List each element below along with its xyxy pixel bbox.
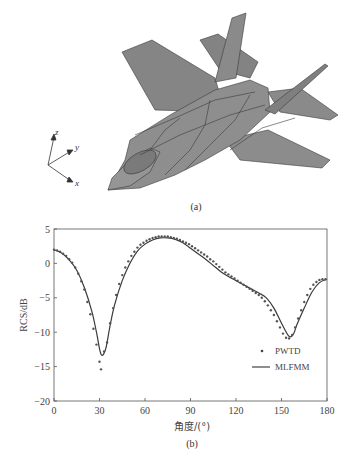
y-tick-label: 0 <box>45 258 50 269</box>
axis-label-z: z <box>54 127 59 137</box>
pwtd-point <box>258 294 260 296</box>
pwtd-point <box>185 242 187 244</box>
pwtd-point <box>118 283 120 285</box>
pwtd-point <box>62 253 64 255</box>
y-tick-label: −20 <box>34 396 50 407</box>
pwtd-point <box>236 279 238 281</box>
pwtd-point <box>98 361 100 363</box>
pwtd-point <box>309 288 311 290</box>
axis-label-x: x <box>74 178 79 188</box>
pwtd-point <box>139 244 141 246</box>
pwtd-point <box>160 235 162 237</box>
pwtd-point <box>239 281 241 283</box>
x-tick-label: 150 <box>274 405 289 416</box>
x-tick-label: 120 <box>229 405 244 416</box>
pwtd-point <box>100 368 102 370</box>
pwtd-point <box>65 255 67 257</box>
pwtd-point <box>167 235 169 237</box>
pwtd-point <box>297 317 299 319</box>
aircraft-mesh <box>108 13 338 190</box>
pwtd-point <box>103 350 105 352</box>
pwtd-point <box>115 294 117 296</box>
pwtd-point <box>154 236 156 238</box>
pwtd-point <box>276 320 278 322</box>
axis-label-y: y <box>74 142 79 152</box>
pwtd-point <box>251 290 253 292</box>
plot-frame <box>54 229 327 401</box>
pwtd-point <box>173 237 175 239</box>
x-axis-label: 角度/(°) <box>174 420 210 432</box>
y-tick-label: 5 <box>45 224 50 235</box>
pwtd-point <box>71 262 73 264</box>
pwtd-point <box>197 249 199 251</box>
pwtd-point <box>109 322 111 324</box>
pwtd-point <box>218 266 220 268</box>
y-axis-label: RCS/dB <box>18 298 29 332</box>
pwtd-point <box>255 292 257 294</box>
x-tick-label: 90 <box>186 405 196 416</box>
pwtd-point <box>59 251 61 253</box>
pwtd-point <box>130 255 132 257</box>
pwtd-point <box>206 255 208 257</box>
pwtd-point <box>194 247 196 249</box>
pwtd-point <box>188 243 190 245</box>
pwtd-point <box>77 273 79 275</box>
pwtd-point <box>303 301 305 303</box>
pwtd-point <box>136 246 138 248</box>
pwtd-point <box>145 239 147 241</box>
pwtd-point <box>74 266 76 268</box>
pwtd-point <box>112 307 114 309</box>
pwtd-point <box>248 288 250 290</box>
pwtd-point <box>148 238 150 240</box>
pwtd-point <box>312 284 314 286</box>
y-tick-label: −15 <box>34 361 50 372</box>
pwtd-point <box>164 235 166 237</box>
pwtd-point <box>151 237 153 239</box>
rcs-chart: 50−5−10−15−20 0306090120150180 PWTD MLFM… <box>0 220 358 470</box>
pwtd-point <box>191 245 193 247</box>
pwtd-point <box>264 300 266 302</box>
pwtd-point <box>230 275 232 277</box>
legend-pwtd-marker <box>261 350 264 353</box>
pwtd-point <box>124 266 126 268</box>
legend-mlfmm-label: MLFMM <box>275 362 310 372</box>
pwtd-point <box>121 274 123 276</box>
pwtd-point <box>95 343 97 345</box>
pwtd-point <box>279 326 281 328</box>
pwtd-point <box>306 294 308 296</box>
pwtd-point <box>182 240 184 242</box>
y-tick-label: −10 <box>34 327 50 338</box>
pwtd-point <box>224 271 226 273</box>
pwtd-point <box>203 253 205 255</box>
pwtd-point <box>270 309 272 311</box>
pwtd-point <box>56 249 58 251</box>
caption-b: (b) <box>186 438 198 450</box>
pwtd-point <box>200 251 202 253</box>
pwtd-point <box>86 301 88 303</box>
pwtd-point <box>133 251 135 253</box>
pwtd-point <box>242 284 244 286</box>
pwtd-point <box>321 278 323 280</box>
x-tick-label: 30 <box>95 405 105 416</box>
pwtd-point <box>318 279 320 281</box>
pwtd-point <box>170 236 172 238</box>
pwtd-point <box>89 313 91 315</box>
x-tick-label: 0 <box>52 405 57 416</box>
pwtd-point <box>324 278 326 280</box>
pwtd-point <box>227 273 229 275</box>
pwtd-point <box>267 304 269 306</box>
caption-a: (a) <box>190 201 201 213</box>
pwtd-point <box>68 258 70 260</box>
pwtd-point <box>273 314 275 316</box>
legend-pwtd-label: PWTD <box>275 346 301 356</box>
pwtd-point <box>288 337 290 339</box>
pwtd-point <box>300 309 302 311</box>
pwtd-point <box>315 281 317 283</box>
pwtd-point <box>142 242 144 244</box>
pwtd-point <box>282 332 284 334</box>
pwtd-point <box>157 235 159 237</box>
pwtd-point <box>83 288 85 290</box>
pwtd-point <box>294 326 296 328</box>
pwtd-point <box>221 268 223 270</box>
pwtd-point <box>127 260 129 262</box>
